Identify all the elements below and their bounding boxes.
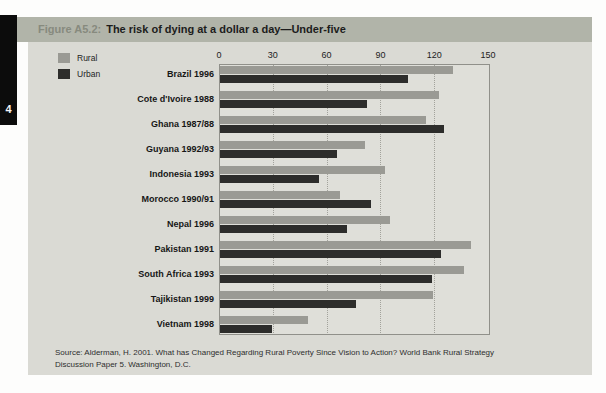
category-label: Brazil 1996	[28, 69, 214, 80]
urban-bar	[220, 175, 319, 183]
figure-title-bar: Figure A5.2:The risk of dying at a dolla…	[17, 17, 592, 42]
rural-bar	[220, 266, 464, 274]
rural-bar	[220, 141, 365, 149]
x-axis-tick-0: 0	[216, 50, 221, 60]
urban-bar	[220, 225, 347, 233]
urban-bar	[220, 200, 371, 208]
rural-bar	[220, 291, 433, 299]
urban-bar	[220, 325, 272, 333]
rural-bar	[220, 316, 308, 324]
rural-bar	[220, 116, 426, 124]
page-edge-tab: 4	[0, 15, 17, 125]
source-note: Source: Alderman, H. 2001. What has Chan…	[55, 347, 575, 371]
legend-label-rural: Rural	[77, 53, 97, 63]
category-label: Morocco 1990/91	[28, 194, 214, 205]
gridline-120	[434, 65, 435, 333]
x-axis-tick-90: 90	[375, 50, 385, 60]
category-label: Tajikistan 1999	[28, 294, 214, 305]
category-label: Guyana 1992/93	[28, 144, 214, 155]
rural-bar	[220, 166, 385, 174]
figure-body: RuralUrban Source: Alderman, H. 2001. Wh…	[28, 42, 592, 375]
rural-bar	[220, 66, 453, 74]
legend-item-rural: Rural	[58, 52, 97, 63]
x-axis-tick-120: 120	[427, 50, 442, 60]
figure-label: Figure A5.2:	[38, 23, 101, 35]
page-number: 4	[5, 103, 11, 115]
category-label: Cote d'Ivoire 1988	[28, 94, 214, 105]
urban-bar	[220, 300, 356, 308]
urban-bar	[220, 250, 441, 258]
urban-bar	[220, 150, 337, 158]
urban-bar	[220, 100, 367, 108]
x-axis-tick-60: 60	[322, 50, 332, 60]
scanned-page: 4 Figure A5.2:The risk of dying at a dol…	[0, 0, 606, 393]
x-axis-tick-150: 150	[480, 50, 495, 60]
rural-bar	[220, 191, 340, 199]
urban-bar	[220, 75, 408, 83]
category-label: Nepal 1996	[28, 219, 214, 230]
category-label: Indonesia 1993	[28, 169, 214, 180]
urban-bar	[220, 125, 444, 133]
rural-bar	[220, 91, 439, 99]
source-line-1: Source: Alderman, H. 2001. What has Chan…	[55, 347, 575, 359]
rural-bar	[220, 216, 390, 224]
legend-swatch-rural	[58, 53, 70, 63]
rural-bar	[220, 241, 471, 249]
category-label: Vietnam 1998	[28, 319, 214, 330]
category-label: Ghana 1987/88	[28, 119, 214, 130]
x-axis-tick-30: 30	[268, 50, 278, 60]
category-label: Pakistan 1991	[28, 244, 214, 255]
figure-title: The risk of dying at a dollar a day—Unde…	[106, 23, 346, 35]
category-label: South Africa 1993	[28, 269, 214, 280]
source-line-2: Discussion Paper 5. Washington, D.C.	[55, 359, 575, 371]
urban-bar	[220, 275, 432, 283]
